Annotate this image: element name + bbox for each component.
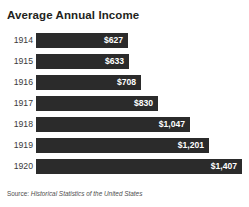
bar-fill-1920: $1,407 — [36, 159, 242, 174]
bar-row: 1917 $830 — [0, 95, 249, 111]
bar-row: 1914 $627 — [0, 32, 249, 48]
bar-fill-1917: $830 — [36, 96, 158, 111]
bar-1919: $1,201 — [36, 138, 209, 153]
bar-value-1914: $627 — [104, 33, 123, 48]
category-label-1918: 1918 — [0, 116, 33, 132]
bar-fill-1918: $1,047 — [36, 117, 190, 132]
source-note: Source: Historical Statistics of the Uni… — [7, 190, 142, 197]
category-label-1915: 1915 — [0, 53, 33, 69]
bar-value-1917: $830 — [134, 96, 153, 111]
source-title: Historical Statistics of the United Stat… — [31, 190, 143, 197]
source-prefix: Source: — [7, 190, 31, 197]
bar-row: 1920 $1,407 — [0, 158, 249, 174]
bar-fill-1915: $633 — [36, 54, 129, 69]
average-annual-income-bar-chart: Average Annual Income 1914 $627 1915 $63… — [0, 0, 249, 207]
bar-1914: $627 — [36, 33, 128, 48]
bar-value-1919: $1,201 — [178, 138, 204, 153]
category-label-1919: 1919 — [0, 137, 33, 153]
chart-title: Average Annual Income — [7, 9, 139, 21]
bar-1918: $1,047 — [36, 117, 190, 132]
bar-row: 1916 $708 — [0, 74, 249, 90]
bar-1916: $708 — [36, 75, 141, 90]
category-label-1917: 1917 — [0, 95, 33, 111]
bar-fill-1919: $1,201 — [36, 138, 209, 153]
bar-value-1918: $1,047 — [159, 117, 185, 132]
bar-1920: $1,407 — [36, 159, 242, 174]
bar-value-1915: $633 — [105, 54, 124, 69]
bar-value-1916: $708 — [117, 75, 136, 90]
category-label-1914: 1914 — [0, 32, 33, 48]
bar-fill-1914: $627 — [36, 33, 128, 48]
bar-row: 1918 $1,047 — [0, 116, 249, 132]
bar-fill-1916: $708 — [36, 75, 141, 90]
category-label-1920: 1920 — [0, 158, 33, 174]
bar-row: 1919 $1,201 — [0, 137, 249, 153]
bar-row: 1915 $633 — [0, 53, 249, 69]
plot-area: 1914 $627 1915 $633 1916 $708 — [0, 32, 249, 182]
bar-1917: $830 — [36, 96, 158, 111]
bar-1915: $633 — [36, 54, 129, 69]
category-label-1916: 1916 — [0, 74, 33, 90]
bar-value-1920: $1,407 — [211, 159, 237, 174]
